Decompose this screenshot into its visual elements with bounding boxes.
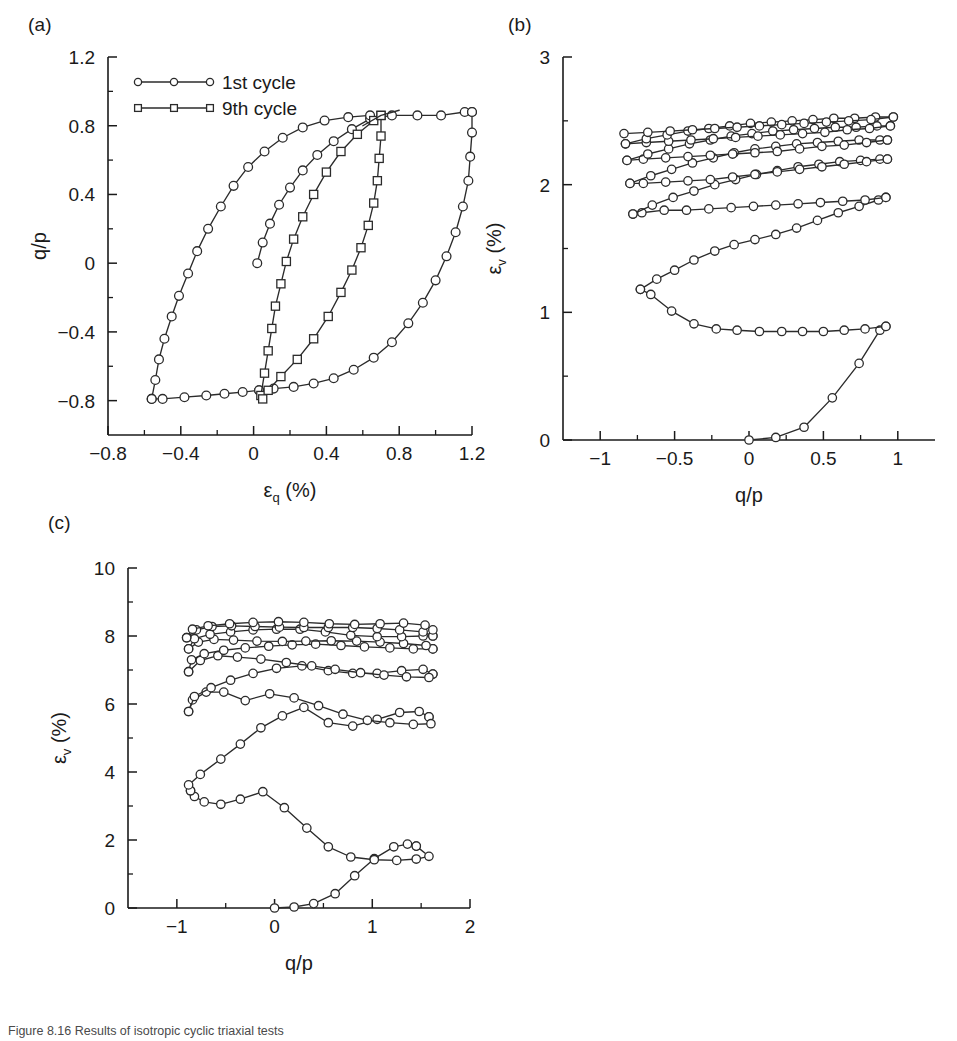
data-point-marker <box>882 322 890 330</box>
data-point-marker <box>253 259 262 268</box>
data-curve <box>749 326 886 440</box>
y-axis-ticks: 0246810 <box>94 558 137 919</box>
data-point-marker <box>653 275 661 283</box>
data-point-marker <box>327 637 335 645</box>
y-tick-label: 3 <box>539 47 550 68</box>
data-curve <box>263 115 381 399</box>
y-tick-label: 0 <box>84 253 95 274</box>
y-tick-label: 6 <box>104 694 115 715</box>
data-point-marker <box>265 642 273 650</box>
data-point-marker <box>265 690 273 698</box>
panel-a: (a) −0.8−0.400.40.81.2−0.8−0.400.40.81.2… <box>0 0 500 500</box>
x-tick-label: 0 <box>744 448 755 469</box>
data-point-marker <box>451 228 460 237</box>
data-point-marker <box>733 326 741 334</box>
data-point-marker <box>217 800 225 808</box>
data-point-marker <box>329 374 338 383</box>
data-point-marker <box>167 312 176 321</box>
y-tick-label: 0.4 <box>69 184 96 205</box>
data-point-marker <box>711 124 719 132</box>
data-point-marker <box>776 131 784 139</box>
data-point-marker <box>840 160 848 168</box>
data-point-marker <box>690 320 698 328</box>
data-point-marker <box>350 620 358 628</box>
data-point-marker <box>755 327 763 335</box>
data-point-marker <box>840 326 848 334</box>
legend-label: 1st cycle <box>222 72 296 93</box>
data-point-marker <box>415 707 423 715</box>
data-point-marker <box>331 665 339 673</box>
data-point-marker <box>644 128 652 136</box>
x-axis-title: q/p <box>285 952 313 974</box>
data-point-marker <box>370 856 378 864</box>
data-point-marker <box>270 904 278 912</box>
x-tick-label: 0.5 <box>810 448 836 469</box>
data-point-marker <box>249 669 257 677</box>
data-point-marker <box>229 181 238 190</box>
data-point-marker <box>220 688 228 696</box>
data-point-marker <box>184 707 192 715</box>
data-point-marker <box>419 665 427 673</box>
data-point-marker <box>844 117 852 125</box>
data-point-marker <box>393 856 401 864</box>
panel-b: (b) −1−0.500.510123q/pεv (%) <box>480 0 957 500</box>
data-point-marker <box>422 641 430 649</box>
data-series-group <box>182 618 437 913</box>
data-point-marker <box>339 710 347 718</box>
x-tick-label: −0.8 <box>89 443 127 464</box>
data-point-marker <box>160 334 169 343</box>
data-point-marker <box>402 673 410 681</box>
y-tick-label: 1 <box>539 302 550 323</box>
data-point-marker <box>889 113 897 121</box>
x-tick-label: 1 <box>893 448 904 469</box>
data-point-marker <box>349 669 357 677</box>
data-point-marker <box>666 127 674 135</box>
data-point-marker <box>236 740 244 748</box>
data-point-marker <box>644 150 652 158</box>
data-point-marker <box>375 154 383 162</box>
y-tick-label: 0.8 <box>69 116 95 137</box>
data-point-marker <box>347 853 355 861</box>
data-point-marker <box>188 625 196 633</box>
data-point-marker <box>731 133 739 141</box>
data-curve <box>152 115 370 399</box>
data-point-marker <box>348 266 356 274</box>
data-point-marker <box>862 138 870 146</box>
data-point-marker <box>329 137 338 146</box>
data-point-marker <box>300 618 308 626</box>
data-point-marker <box>772 433 780 441</box>
data-point-marker <box>233 653 241 661</box>
data-point-marker <box>244 163 253 172</box>
data-point-marker <box>298 662 306 670</box>
data-point-marker <box>813 216 821 224</box>
y-axis-title: q/p <box>28 232 50 260</box>
data-point-marker <box>792 224 800 232</box>
data-point-marker <box>709 135 717 143</box>
data-point-marker <box>794 200 802 208</box>
panel-b-label: (b) <box>508 14 532 36</box>
data-point-marker <box>773 147 781 155</box>
data-point-marker <box>883 136 891 144</box>
data-point-marker <box>749 202 757 210</box>
legend-label: 9th cycle <box>222 98 297 119</box>
data-point-marker <box>182 634 190 642</box>
data-point-marker <box>386 719 394 727</box>
data-point-marker <box>886 122 894 130</box>
x-tick-label: 0.4 <box>313 443 340 464</box>
y-tick-label: 10 <box>94 558 115 579</box>
data-point-marker <box>706 151 714 159</box>
legend-marker-square <box>171 105 178 112</box>
data-point-marker <box>840 141 848 149</box>
data-point-marker <box>778 327 786 335</box>
data-point-marker <box>468 108 477 117</box>
data-point-marker <box>623 156 631 164</box>
data-point-marker <box>711 247 719 255</box>
data-point-marker <box>822 118 830 126</box>
data-point-marker <box>395 708 403 716</box>
data-point-marker <box>427 720 435 728</box>
data-point-marker <box>290 903 298 911</box>
data-point-marker <box>147 395 156 404</box>
data-point-marker <box>667 307 675 315</box>
panel-a-label: (a) <box>28 14 52 36</box>
data-point-marker <box>303 824 311 832</box>
